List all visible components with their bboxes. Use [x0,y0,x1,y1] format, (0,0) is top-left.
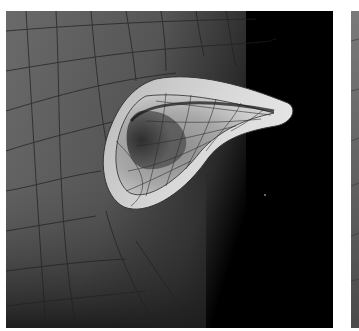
side-mesh-render [351,11,359,328]
mesh-render-side-panel [351,11,359,328]
mesh-render-main-panel [6,11,333,328]
ear-mesh-render [6,11,333,328]
